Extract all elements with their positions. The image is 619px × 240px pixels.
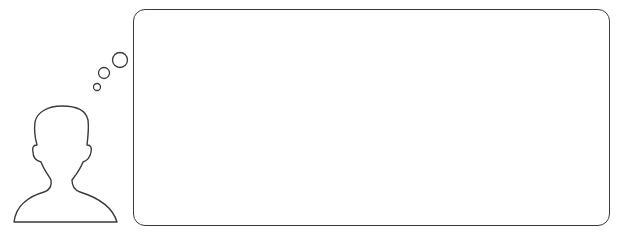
thought-bubble-small-icon	[94, 84, 101, 91]
thought-text-content	[134, 10, 609, 225]
thought-bubble-medium-icon	[99, 68, 110, 79]
thought-bubble-large-icon	[113, 53, 128, 68]
illustration-canvas	[0, 0, 619, 240]
thought-text-box	[133, 9, 610, 226]
person-silhouette-icon	[14, 106, 117, 222]
